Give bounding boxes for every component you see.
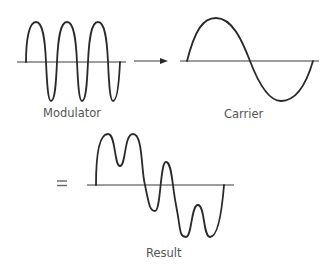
carrier-waveform [180, 18, 319, 101]
modulator-waveform [17, 22, 126, 101]
modulator-label: Modulator [43, 106, 101, 120]
equals-icon [57, 181, 67, 186]
result-label: Result [146, 246, 182, 260]
diagram-canvas [0, 0, 331, 269]
carrier-wave [187, 18, 313, 101]
result-waveform [87, 134, 234, 237]
carrier-label: Carrier [224, 107, 263, 121]
arrow-icon [134, 58, 168, 64]
